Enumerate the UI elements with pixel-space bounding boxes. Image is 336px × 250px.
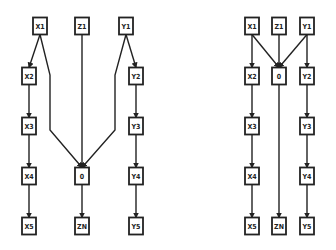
left-diagram-node-x3: X3 xyxy=(22,118,36,135)
left-diagram-node-z1: Z1 xyxy=(75,18,89,35)
node-label: X5 xyxy=(24,223,33,231)
node-label: Y4 xyxy=(302,173,313,181)
node-label: X5 xyxy=(247,223,256,231)
node-label: X4 xyxy=(24,173,34,181)
right-diagram-node-x4: X4 xyxy=(245,168,259,185)
right-diagram-node-x3: X3 xyxy=(245,118,259,135)
node-label: X2 xyxy=(247,73,256,81)
left-diagram-node-y5: Y5 xyxy=(129,218,143,235)
right-diagram-node-x2: X2 xyxy=(245,68,259,85)
node-label: X3 xyxy=(247,123,256,131)
right-diagram-node-z1: Z1 xyxy=(272,18,286,35)
right-diagram-node-o: 0 xyxy=(272,68,286,85)
right-diagram-node-y2: Y2 xyxy=(300,68,314,85)
edge-y1-to-o xyxy=(279,35,307,68)
node-label: ZN xyxy=(77,223,87,231)
right-diagram-node-x1: X1 xyxy=(245,18,259,35)
right-diagram-node-zn: ZN xyxy=(272,218,286,235)
node-label: Y3 xyxy=(302,123,312,131)
edge-y1-to-y2 xyxy=(126,35,136,68)
left-diagram-node-o: 0 xyxy=(75,168,89,185)
node-label: Y3 xyxy=(131,123,141,131)
left-diagram-node-x5: X5 xyxy=(22,218,36,235)
left-diagram-node-y4: Y4 xyxy=(129,168,143,185)
node-label: Z1 xyxy=(78,23,87,31)
node-label: X1 xyxy=(35,23,44,31)
edge-y1-to-o xyxy=(82,35,126,168)
right-diagram-node-x5: X5 xyxy=(245,218,259,235)
left-diagram-node-x4: X4 xyxy=(22,168,36,185)
edge-x1-to-x2 xyxy=(29,35,40,68)
right-diagram-node-y5: Y5 xyxy=(300,218,314,235)
right-diagram-node-y4: Y4 xyxy=(300,168,314,185)
node-label: 0 xyxy=(80,173,85,181)
node-label: X2 xyxy=(24,73,33,81)
node-label: Y2 xyxy=(302,73,312,81)
node-label: Y4 xyxy=(131,173,142,181)
right-diagram-node-y1: Y1 xyxy=(300,18,314,35)
left-diagram-node-zn: ZN xyxy=(75,218,89,235)
diagram-canvas: X1Z1Y1X2Y2X3Y3X40Y4X5ZNY5X1Z1Y1X20Y2X3Y3… xyxy=(0,0,336,250)
node-label: X3 xyxy=(24,123,33,131)
node-label: ZN xyxy=(274,223,284,231)
left-diagram-node-y2: Y2 xyxy=(129,68,143,85)
node-label: Y5 xyxy=(302,223,312,231)
node-label: Y5 xyxy=(131,223,141,231)
left-diagram-node-x1: X1 xyxy=(33,18,47,35)
node-label: 0 xyxy=(277,73,282,81)
node-label: X1 xyxy=(247,23,256,31)
node-label: Y2 xyxy=(131,73,141,81)
node-label: Y1 xyxy=(302,23,312,31)
node-label: X4 xyxy=(247,173,257,181)
left-diagram-node-y1: Y1 xyxy=(119,18,133,35)
edge-x1-to-o xyxy=(252,35,279,68)
edge-x1-to-o xyxy=(40,35,82,168)
node-label: Z1 xyxy=(275,23,284,31)
left-diagram-node-x2: X2 xyxy=(22,68,36,85)
node-label: Y1 xyxy=(121,23,131,31)
left-diagram-node-y3: Y3 xyxy=(129,118,143,135)
right-diagram-node-y3: Y3 xyxy=(300,118,314,135)
